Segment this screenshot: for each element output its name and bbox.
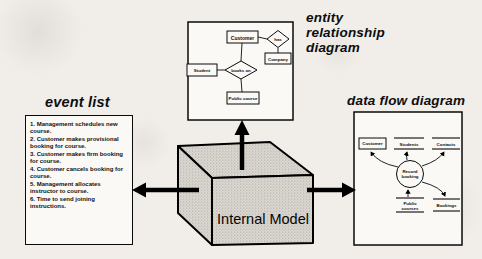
erd-entity-student-label: Student (194, 68, 211, 73)
dfd-store-bookings-label: Bookings (436, 203, 457, 208)
erd-panel: Customer has Company Student books on Pu… (187, 22, 293, 120)
dfd-store-contacts-label: Contacts (437, 142, 456, 147)
erd-entity-customer-label: Customer (231, 35, 254, 41)
dfd-process-label-line1: Record (402, 169, 417, 174)
dfd-process-label-line2: booking (401, 174, 418, 179)
cube-front-face (212, 175, 313, 245)
dfd-panel: Customer Students Contacts Record bookin… (354, 112, 462, 245)
internal-model-cube: Internal Model (178, 142, 313, 245)
diagram-layer: Customer has Company Student books on Pu… (0, 0, 482, 259)
arrow-left-head-icon (132, 183, 146, 198)
dfd-process-record-booking: Record booking (397, 161, 424, 188)
dfd-store-public-label-line2: courses (402, 206, 419, 211)
arrow-up-head-icon (235, 120, 250, 135)
figure-canvas: event list entity relationship diagram d… (0, 0, 482, 259)
dfd-flow-to-students (407, 152, 408, 160)
erd-relationship-right-label: has (274, 37, 282, 42)
dfd-external-customer-label: Customer (362, 141, 383, 146)
erd-relationship-center-label: books on (231, 68, 251, 73)
erd-entity-public-course-label: Public course (229, 96, 258, 101)
internal-model-label: Internal Model (217, 211, 309, 227)
erd-entity-company-label: Company (268, 57, 289, 62)
dfd-store-students-label: Students (400, 142, 419, 147)
dfd-store-public-label-line1: Public (403, 201, 417, 206)
